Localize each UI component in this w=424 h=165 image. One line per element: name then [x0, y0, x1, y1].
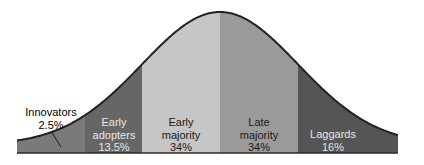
- laggards-name: Laggards: [298, 128, 368, 141]
- label-late-majority: Late majority 34%: [220, 116, 298, 154]
- early-adopters-name-1: Early: [86, 116, 142, 129]
- early-adopters-percent: 13.5%: [86, 141, 142, 154]
- label-innovators: Innovators 2.5%: [17, 106, 85, 131]
- early-adopters-name-2: adopters: [86, 129, 142, 142]
- laggards-percent: 16%: [298, 141, 368, 154]
- late-majority-percent: 34%: [220, 141, 298, 154]
- late-majority-name-1: Late: [220, 116, 298, 129]
- late-majority-name-2: majority: [220, 129, 298, 142]
- label-early-majority: Early majority 34%: [142, 116, 220, 154]
- label-laggards: Laggards 16%: [298, 128, 368, 153]
- early-majority-name-2: majority: [142, 129, 220, 142]
- innovators-name: Innovators: [17, 106, 85, 119]
- label-early-adopters: Early adopters 13.5%: [86, 116, 142, 154]
- early-majority-percent: 34%: [142, 141, 220, 154]
- early-majority-name-1: Early: [142, 116, 220, 129]
- segment-innovators: [0, 0, 85, 165]
- innovators-percent: 2.5%: [17, 119, 85, 132]
